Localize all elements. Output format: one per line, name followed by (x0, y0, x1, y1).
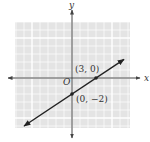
origin-label: O (63, 77, 71, 87)
x-axis-label: x (144, 73, 149, 83)
data-point (94, 76, 98, 80)
point-label-0-neg2: (0, −2) (76, 94, 108, 104)
point-label-3-0: (3, 0) (75, 64, 99, 74)
coordinate-plane: x y O (3, 0) (0, −2) (0, 0, 150, 142)
data-point (70, 92, 74, 96)
y-axis-label: y (68, 0, 75, 10)
